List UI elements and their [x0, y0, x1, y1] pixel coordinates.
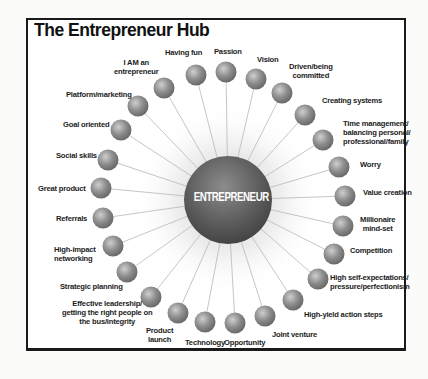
node-label: Having fun [165, 48, 202, 57]
node-label: Great product [38, 184, 86, 193]
node-label: Goal oriented [63, 120, 109, 129]
node-label: Technology [185, 338, 225, 347]
node-label: High-yield action steps [304, 310, 383, 319]
node-label: Passion [214, 47, 242, 56]
node-label: Time management/ balancing personal/ pro… [343, 119, 411, 146]
node-ball [111, 120, 132, 141]
node-ball [216, 62, 237, 83]
node-ball [333, 216, 354, 237]
node-ball [295, 105, 316, 126]
node-label: Product launch [146, 326, 173, 344]
node-label: High-impact networking [54, 245, 96, 263]
node-ball [91, 178, 112, 199]
node-label: Competition [350, 246, 392, 255]
node-label: Value creation [363, 188, 412, 197]
node-label: Worry [360, 160, 381, 169]
node-label: Creating systems [322, 96, 382, 105]
node-ball [93, 208, 114, 229]
node-label: Platform/marketing [66, 90, 132, 99]
node-label: Strategic planning [60, 282, 123, 291]
node-ball [335, 186, 356, 207]
node-ball [255, 306, 276, 327]
node-ball [308, 269, 329, 290]
node-ball [168, 303, 189, 324]
node-label: Opportunity [224, 338, 265, 347]
node-label: Social skills [56, 151, 97, 160]
node-label: Millionaire mind-set [360, 215, 395, 233]
node-ball [272, 83, 293, 104]
center-label: ENTREPRENEUR [194, 190, 263, 204]
node-ball [283, 290, 304, 311]
node-label: Driven/being committed [289, 62, 333, 80]
node-ball [154, 78, 175, 99]
node-ball [103, 236, 124, 257]
node-ball [324, 244, 345, 265]
node-label: Vision [257, 55, 278, 64]
node-ball [329, 157, 350, 178]
node-ball [186, 65, 207, 86]
node-ball [246, 69, 267, 90]
node-label: I AM an entrepreneur [114, 58, 158, 76]
node-label: Joint venture [272, 330, 317, 339]
node-ball [195, 312, 216, 333]
node-ball [98, 150, 119, 171]
node-ball [117, 262, 138, 283]
node-label: High self-expectations/ pressure/perfect… [330, 273, 410, 291]
node-ball [225, 313, 246, 334]
node-label: Referrals [56, 214, 87, 223]
node-ball [313, 130, 334, 151]
node-label: Effective leadership/ getting the right … [62, 299, 152, 326]
